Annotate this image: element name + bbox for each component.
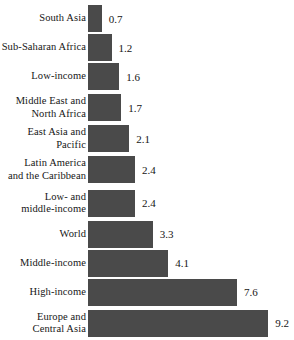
bar-category-label: World [0,228,88,241]
bar-category-label: Europe and Central Asia [0,311,88,336]
bar-row: Low- and middle-income2.4 [0,186,294,219]
bar [88,5,102,32]
bar-value-label: 2.4 [135,197,156,209]
bar [88,63,119,90]
bar-category-label: Middle East and North Africa [0,95,88,120]
bar-category-label: Sub-Saharan Africa [0,41,88,54]
bar-category-label: Middle-income [0,257,88,270]
bar [88,310,268,337]
bar-track: 0.7 [88,4,294,33]
bar-value-label: 1.6 [119,71,140,83]
bar-row: High-income7.6 [0,278,294,307]
bar-value-label: 2.4 [135,164,156,176]
bar [88,94,121,121]
bar-row: World3.3 [0,220,294,249]
bar [88,279,237,306]
bar-value-label: 0.7 [102,13,123,25]
bar-track: 9.2 [88,307,294,340]
bar-value-label: 3.3 [153,228,174,240]
bar [88,125,129,152]
bar-value-label: 4.1 [168,257,189,269]
bar-row: East Asia and Pacific2.1 [0,124,294,153]
bar-track: 2.4 [88,186,294,219]
bar-row: Middle-income4.1 [0,249,294,278]
bar [88,250,168,277]
bar-row: Low-income1.6 [0,62,294,91]
bar-value-label: 1.7 [121,102,142,114]
horizontal-bar-chart: South Asia0.7Sub-Saharan Africa1.2Low-in… [0,0,294,340]
bar-category-label: High-income [0,286,88,299]
bar-track: 1.6 [88,62,294,91]
bar-category-label: Low- and middle-income [0,191,88,216]
bar-value-label: 1.2 [112,42,133,54]
bar-category-label: East Asia and Pacific [0,126,88,151]
bar-row: Middle East and North Africa1.7 [0,91,294,124]
bar-track: 3.3 [88,220,294,249]
bar [88,221,153,248]
bar-row: South Asia0.7 [0,4,294,33]
bar-value-label: 9.2 [268,317,289,329]
bar-category-label: South Asia [0,12,88,25]
bar-track: 1.2 [88,33,294,62]
bar [88,34,112,61]
bar-track: 1.7 [88,91,294,124]
bar-track: 7.6 [88,278,294,307]
bar-row: Latin America and the Caribbean2.4 [0,153,294,186]
bar-track: 2.1 [88,124,294,153]
bar [88,156,135,183]
bar-value-label: 2.1 [129,133,150,145]
bar-category-label: Low-income [0,70,88,83]
bar-track: 4.1 [88,249,294,278]
bar-row: Europe and Central Asia9.2 [0,307,294,340]
bar [88,190,135,217]
bar-track: 2.4 [88,153,294,186]
bar-row: Sub-Saharan Africa1.2 [0,33,294,62]
bar-value-label: 7.6 [237,286,258,298]
bar-category-label: Latin America and the Caribbean [0,157,88,182]
